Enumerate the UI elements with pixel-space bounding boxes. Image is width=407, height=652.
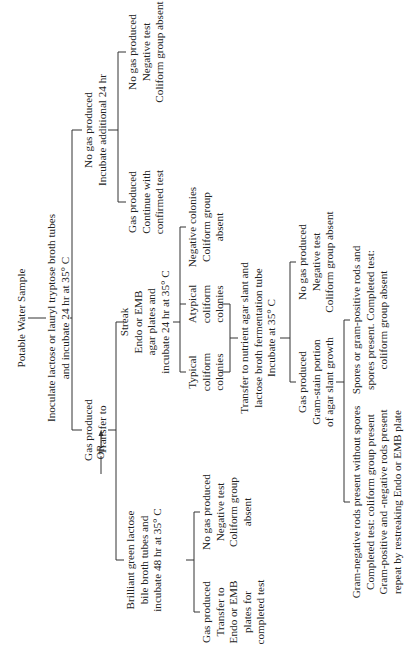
bgb-no-gas-negative: No gas produced Negative test Coliform g… xyxy=(200,474,254,550)
typical-coliform-colonies: Typical coliform colonies xyxy=(186,353,227,392)
completed-transfer-agar-slant: Transfer to nutrient agar slant and lact… xyxy=(238,262,279,414)
confirmed-bgb-broth: Brilliant green lactose bile broth tubes… xyxy=(124,508,165,612)
atypical-coliform-colonies: Atypical coliform colonies xyxy=(186,285,227,324)
gram-negative-rods-result: Gram-negative rods present without spore… xyxy=(350,406,404,599)
bgb-gas-produced: Gas produced Transfer to Endo or EMB pla… xyxy=(200,580,268,645)
completed-gas-gram-stain: Gas produced Gram-stain portion of agar … xyxy=(296,337,337,427)
step-inoculate-broth: Inoculate lactose or lauryl tryptose bro… xyxy=(45,214,72,422)
title-potable-water-sample: Potable Water Sample xyxy=(15,269,29,368)
presumptive-no-gas: No gas produced Incubate additional 24 h… xyxy=(82,74,109,186)
or-label: OR xyxy=(94,445,108,460)
additional-no-gas-negative: No gas produced Negative test Coliform g… xyxy=(126,1,167,102)
coliform-test-flowchart: Potable Water Sample Inoculate lactose o… xyxy=(0,0,407,652)
completed-no-gas-negative: No gas produced Negative test Coliform g… xyxy=(296,211,337,312)
negative-colonies: Negative colonies Coliform group absent xyxy=(186,187,227,267)
additional-gas-produced: Gas produced Continue with confirmed tes… xyxy=(126,170,167,234)
spores-result: Spores or gram-positive rods and spores … xyxy=(350,246,391,395)
confirmed-streak-plates: Streak Endo or EMB agar plates and incub… xyxy=(118,270,172,374)
